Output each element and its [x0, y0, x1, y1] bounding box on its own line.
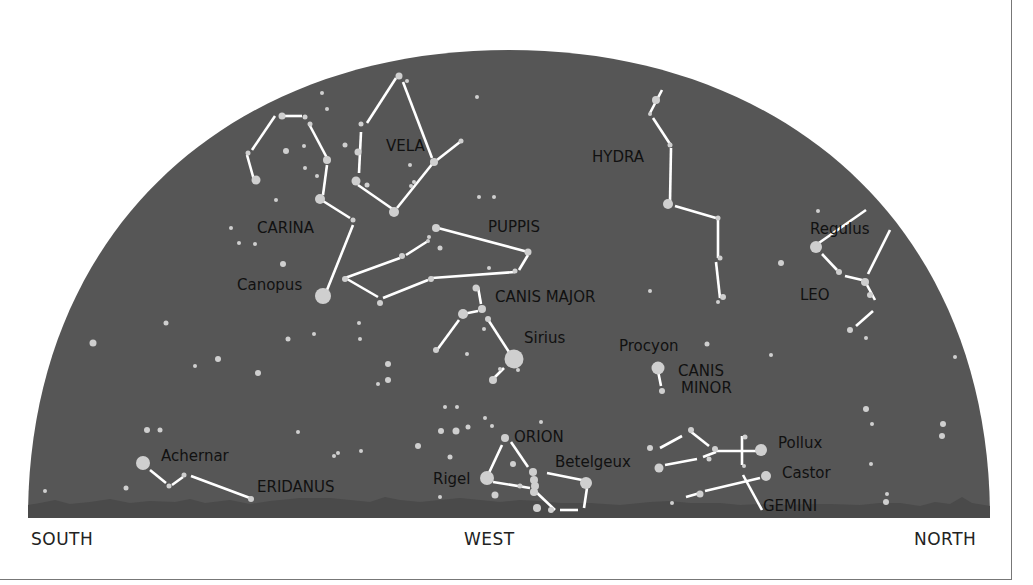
star — [167, 484, 172, 489]
constellation-label-canis: CANIS — [678, 362, 724, 380]
star — [505, 350, 524, 369]
star — [939, 433, 945, 439]
star — [652, 362, 665, 375]
star — [716, 300, 720, 304]
star — [475, 95, 479, 99]
star — [769, 353, 773, 357]
star — [453, 428, 460, 435]
star — [448, 455, 453, 460]
star — [580, 477, 592, 489]
star — [315, 194, 325, 204]
constellation-label-eridanus: ERIDANUS — [257, 478, 335, 496]
direction-west-label: WEST — [464, 529, 515, 549]
star — [501, 434, 509, 442]
star — [396, 73, 403, 80]
star — [668, 143, 673, 148]
star — [315, 174, 319, 178]
star — [861, 278, 869, 286]
star — [358, 337, 362, 341]
star — [483, 416, 487, 420]
constellation-label-gemini: GEMINI — [763, 497, 817, 515]
star-label-betelgeux: Betelgeux — [555, 453, 631, 471]
star — [438, 495, 442, 499]
star — [663, 199, 673, 209]
constellation-label-leo: LEO — [800, 286, 830, 304]
star — [158, 428, 163, 433]
star-label-pollux: Pollux — [778, 434, 823, 452]
star — [342, 276, 348, 282]
star — [847, 327, 853, 333]
star — [530, 488, 538, 496]
star — [252, 176, 261, 185]
star — [473, 285, 480, 292]
star — [248, 496, 254, 502]
star — [490, 424, 494, 428]
star — [409, 184, 413, 188]
star — [492, 492, 499, 499]
star — [513, 269, 518, 274]
star-label-castor: Castor — [782, 464, 832, 482]
star — [352, 177, 361, 186]
star — [940, 421, 946, 427]
star — [438, 246, 443, 251]
star — [867, 292, 873, 298]
star — [286, 337, 291, 342]
star — [336, 451, 340, 455]
star — [283, 148, 289, 154]
star-label-procyon: Procyon — [619, 337, 679, 355]
star — [280, 261, 286, 267]
star — [498, 367, 502, 371]
star — [351, 218, 356, 223]
star — [659, 388, 665, 394]
star — [743, 435, 748, 440]
star — [415, 443, 421, 449]
star — [716, 216, 721, 221]
star — [408, 163, 412, 167]
star — [90, 340, 97, 347]
star — [518, 484, 523, 489]
star — [465, 352, 469, 356]
constellation-label-canis-major: CANIS MAJOR — [495, 288, 596, 306]
star — [279, 113, 286, 120]
star — [303, 115, 308, 120]
direction-south-label: SOUTH — [31, 529, 93, 549]
constellation-label-vela: VELA — [386, 137, 425, 155]
star — [237, 241, 241, 245]
star — [480, 471, 494, 485]
star — [430, 158, 438, 166]
star — [816, 209, 820, 213]
constellation-label-puppis: PUPPIS — [488, 218, 540, 236]
star — [705, 342, 710, 347]
constellation-label-carina: CARINA — [257, 219, 315, 237]
star — [144, 427, 150, 433]
star — [489, 376, 497, 384]
star — [325, 107, 329, 111]
star — [359, 449, 363, 453]
constellation-label-minor: MINOR — [681, 379, 732, 397]
star — [953, 355, 957, 359]
star — [707, 457, 712, 462]
star — [412, 180, 416, 184]
star — [885, 492, 889, 496]
star — [485, 316, 491, 322]
star — [253, 242, 257, 246]
star — [246, 151, 251, 156]
star — [389, 207, 399, 217]
star — [182, 473, 187, 478]
star — [136, 456, 150, 470]
star — [215, 356, 221, 362]
star — [385, 377, 391, 383]
star — [670, 501, 674, 505]
star — [455, 405, 459, 409]
star — [492, 195, 496, 199]
star — [487, 266, 491, 270]
star — [761, 471, 771, 481]
star — [647, 445, 653, 451]
star — [193, 364, 197, 368]
star — [548, 507, 554, 513]
star — [428, 276, 434, 282]
star — [648, 112, 652, 116]
constellation-label-orion: ORION — [514, 428, 564, 446]
star — [459, 139, 464, 144]
star-label-sirius: Sirius — [524, 329, 566, 347]
